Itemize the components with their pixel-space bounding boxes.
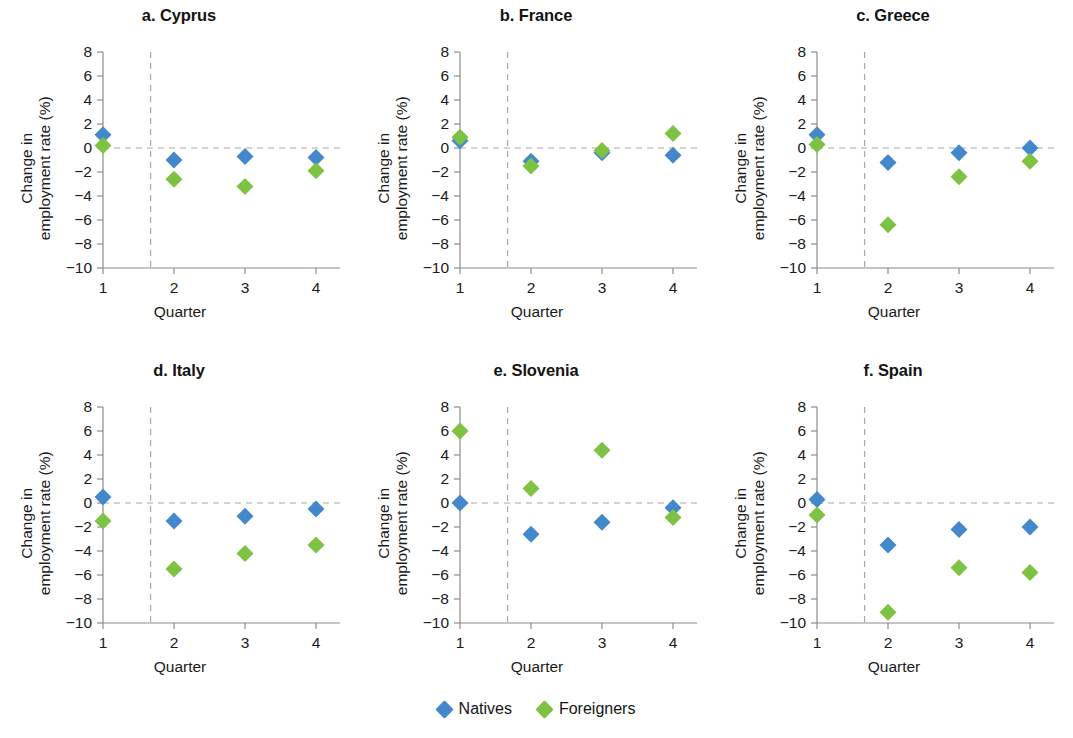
- x-tick-label: 2: [170, 634, 179, 651]
- data-point-foreigners: [237, 178, 254, 195]
- panel-slovenia: e. SloveniaChange inemployment rate (%)Q…: [357, 355, 715, 705]
- y-tick-label: −4: [788, 542, 806, 559]
- data-point-natives: [1022, 519, 1039, 536]
- data-point-foreigners: [1022, 153, 1039, 170]
- y-tick-label: 4: [797, 446, 806, 463]
- y-tick-label: −2: [788, 163, 806, 180]
- y-tick-label: 2: [83, 470, 92, 487]
- x-tick-label: 4: [1026, 634, 1035, 651]
- data-point-foreigners: [951, 559, 968, 576]
- figure-multi-panel-scatter: a. CyprusChange inemployment rate (%)Qua…: [0, 0, 1073, 738]
- panel-greece: c. GreeceChange inemployment rate (%)Qua…: [714, 0, 1072, 350]
- data-point-natives: [166, 152, 183, 169]
- y-tick-label: −4: [74, 187, 92, 204]
- y-tick-label: −2: [788, 518, 806, 535]
- x-tick-label: 2: [527, 279, 536, 296]
- y-tick-label: 0: [440, 139, 449, 156]
- y-tick-label: −2: [74, 518, 92, 535]
- data-point-foreigners: [594, 142, 611, 159]
- data-point-natives: [951, 144, 968, 161]
- data-point-natives: [523, 526, 540, 543]
- y-tick-label: −8: [788, 590, 806, 607]
- data-point-foreigners: [809, 136, 826, 153]
- y-tick-label: 6: [797, 67, 806, 84]
- x-tick-label: 3: [241, 279, 250, 296]
- x-tick-label: 4: [669, 634, 678, 651]
- y-tick-label: 8: [440, 43, 449, 60]
- x-tick-label: 3: [955, 279, 964, 296]
- y-tick-label: −4: [431, 542, 449, 559]
- legend-entry-foreigners[interactable]: Foreigners: [538, 700, 635, 718]
- y-tick-label: 0: [83, 139, 92, 156]
- plot-area-spain: 86420−2−4−6−8−101234: [714, 355, 1072, 705]
- data-point-foreigners: [308, 162, 325, 179]
- y-tick-label: −10: [423, 259, 450, 276]
- y-tick-label: 4: [83, 446, 92, 463]
- y-tick-label: 0: [440, 494, 449, 511]
- y-tick-label: 2: [440, 115, 449, 132]
- x-tick-label: 1: [813, 279, 822, 296]
- legend-label: Natives: [459, 700, 512, 718]
- data-point-natives: [951, 521, 968, 538]
- y-tick-label: 6: [797, 422, 806, 439]
- y-tick-label: −2: [431, 518, 449, 535]
- y-tick-label: −6: [788, 566, 806, 583]
- y-tick-label: 4: [83, 91, 92, 108]
- data-point-foreigners: [951, 168, 968, 185]
- data-point-natives: [237, 148, 254, 165]
- panel-italy: d. ItalyChange inemployment rate (%)Quar…: [0, 355, 358, 705]
- y-tick-label: −6: [74, 566, 92, 583]
- y-tick-label: 6: [83, 67, 92, 84]
- plot-area-france: 86420−2−4−6−8−101234: [357, 0, 715, 350]
- y-tick-label: −2: [74, 163, 92, 180]
- data-point-foreigners: [452, 423, 469, 440]
- data-point-foreigners: [880, 604, 897, 621]
- y-tick-label: −10: [423, 614, 450, 631]
- data-point-foreigners: [166, 561, 183, 578]
- plot-area-italy: 86420−2−4−6−8−101234: [0, 355, 358, 705]
- x-tick-label: 3: [241, 634, 250, 651]
- y-tick-label: 4: [440, 91, 449, 108]
- data-point-natives: [237, 508, 254, 525]
- y-tick-label: −8: [74, 235, 92, 252]
- legend-label: Foreigners: [559, 700, 635, 718]
- data-point-natives: [594, 514, 611, 531]
- legend-entry-natives[interactable]: Natives: [438, 700, 512, 718]
- data-point-natives: [880, 154, 897, 171]
- x-tick-label: 4: [312, 634, 321, 651]
- y-tick-label: −6: [431, 566, 449, 583]
- data-point-foreigners: [523, 480, 540, 497]
- x-tick-label: 4: [669, 279, 678, 296]
- x-tick-label: 3: [955, 634, 964, 651]
- x-tick-label: 2: [527, 634, 536, 651]
- x-tick-label: 1: [99, 279, 108, 296]
- panel-france: b. FranceChange inemployment rate (%)Qua…: [357, 0, 715, 350]
- y-tick-label: −8: [74, 590, 92, 607]
- y-tick-label: 6: [83, 422, 92, 439]
- data-point-foreigners: [95, 137, 112, 154]
- plot-area-greece: 86420−2−4−6−8−101234: [714, 0, 1072, 350]
- y-tick-label: −10: [66, 259, 93, 276]
- x-tick-label: 1: [99, 634, 108, 651]
- y-tick-label: −4: [431, 187, 449, 204]
- x-tick-label: 1: [456, 634, 465, 651]
- y-tick-label: −10: [780, 259, 807, 276]
- y-tick-label: 0: [797, 139, 806, 156]
- plot-area-cyprus: 86420−2−4−6−8−101234: [0, 0, 358, 350]
- y-tick-label: −6: [74, 211, 92, 228]
- x-tick-label: 1: [813, 634, 822, 651]
- y-tick-label: 8: [797, 43, 806, 60]
- y-tick-label: 4: [440, 446, 449, 463]
- data-point-foreigners: [237, 545, 254, 562]
- y-tick-label: 0: [797, 494, 806, 511]
- data-point-foreigners: [665, 125, 682, 142]
- x-tick-label: 2: [884, 279, 893, 296]
- legend-diamond-icon: [535, 700, 553, 718]
- y-tick-label: 0: [83, 494, 92, 511]
- data-point-foreigners: [594, 442, 611, 459]
- y-tick-label: 6: [440, 422, 449, 439]
- x-tick-label: 1: [456, 279, 465, 296]
- data-point-foreigners: [880, 216, 897, 233]
- x-tick-label: 3: [598, 279, 607, 296]
- y-tick-label: 8: [83, 398, 92, 415]
